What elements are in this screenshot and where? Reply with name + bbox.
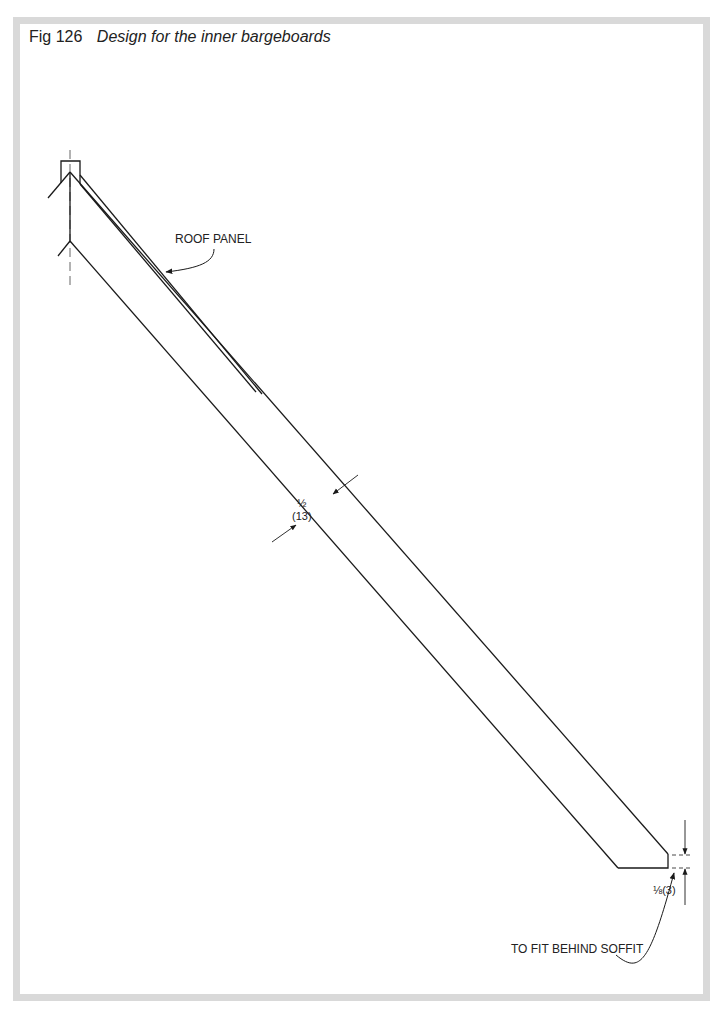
roof-panel-leader xyxy=(166,249,214,272)
bargeboard-end xyxy=(618,854,668,868)
width-dim-metric: (13) xyxy=(292,510,312,523)
lower-tick-left xyxy=(58,241,70,256)
dim-arrow-lower xyxy=(272,525,296,542)
width-dimension: ½ (13) xyxy=(292,497,312,523)
width-dim-fraction: ½ xyxy=(292,497,312,510)
bargeboard-drawing xyxy=(0,0,724,1009)
bargeboard-bottom-edge xyxy=(70,241,618,868)
end-dimension: ⅛(3) xyxy=(653,884,676,896)
apex-tick-left xyxy=(48,172,70,198)
dim-arrow-upper xyxy=(333,475,358,494)
roof-panel-line-2 xyxy=(80,184,256,392)
soffit-note: TO FIT BEHIND SOFFIT xyxy=(511,942,643,956)
roof-panel-label: ROOF PANEL xyxy=(175,232,251,246)
bargeboard-top-edge xyxy=(70,172,668,854)
